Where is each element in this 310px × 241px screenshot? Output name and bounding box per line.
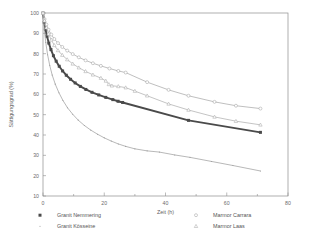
data-point <box>61 69 64 72</box>
data-point <box>195 214 198 217</box>
data-point <box>69 78 72 81</box>
data-point <box>53 44 56 47</box>
legend-label: Marmor Laas <box>213 223 245 229</box>
plot-frame <box>43 13 288 196</box>
data-point <box>117 100 120 103</box>
y-axis-title: Sättigungsgrad (%) <box>8 81 14 127</box>
data-point <box>146 81 149 84</box>
data-point <box>55 60 58 63</box>
data-point <box>90 130 91 131</box>
data-point <box>84 125 85 126</box>
legend-entry[interactable]: Marmor Laas <box>194 223 245 229</box>
series-4 <box>41 11 262 126</box>
data-point <box>232 165 233 166</box>
data-point <box>52 74 53 75</box>
x-tick-label: 60 <box>224 200 230 206</box>
data-point <box>121 101 124 104</box>
data-point <box>50 38 53 41</box>
y-tick-label: 60 <box>33 91 39 97</box>
data-point <box>174 154 175 155</box>
data-point <box>211 161 212 162</box>
data-point <box>47 54 48 55</box>
y-tick-label: 40 <box>33 132 39 138</box>
series-line <box>43 13 260 109</box>
data-point <box>134 148 135 149</box>
legend-entry[interactable]: Granit Nemmering <box>39 212 102 218</box>
y-tick-label: 100 <box>30 10 39 16</box>
data-point <box>84 59 87 62</box>
data-point <box>213 100 216 103</box>
data-point <box>77 66 80 69</box>
data-point <box>117 69 120 72</box>
data-point <box>99 64 102 67</box>
data-point <box>111 141 112 142</box>
y-tick-label: 90 <box>33 30 39 36</box>
data-point <box>187 119 190 122</box>
y-tick-label: 30 <box>33 152 39 158</box>
data-point <box>71 53 74 56</box>
data-point <box>79 85 82 88</box>
data-point <box>62 100 63 101</box>
x-axis-title: Zeit (h) <box>157 209 174 215</box>
data-point <box>259 107 262 110</box>
series-line <box>43 13 260 125</box>
data-point <box>78 120 79 121</box>
data-point <box>167 88 170 91</box>
data-point <box>67 107 68 108</box>
data-point <box>77 56 80 59</box>
data-point <box>58 92 59 93</box>
legend-label: Granit Kösseine <box>57 223 95 229</box>
data-point <box>111 98 114 101</box>
series-line <box>43 13 260 171</box>
data-point <box>118 143 119 144</box>
data-point <box>57 42 60 45</box>
series-2 <box>42 12 261 171</box>
data-point <box>50 33 53 36</box>
data-point <box>91 91 94 94</box>
data-point <box>55 84 56 85</box>
data-point <box>194 224 197 227</box>
series-3 <box>42 12 262 111</box>
data-point <box>125 146 126 147</box>
y-tick-label: 10 <box>33 193 39 199</box>
data-point <box>97 93 100 96</box>
data-point <box>39 226 40 227</box>
data-point <box>66 49 69 52</box>
data-point <box>47 42 50 45</box>
data-point <box>259 131 262 134</box>
data-point <box>58 65 61 68</box>
data-point <box>189 157 190 158</box>
data-point <box>104 96 107 99</box>
data-point <box>159 152 160 153</box>
data-point <box>187 94 190 97</box>
y-tick-label: 80 <box>33 51 39 57</box>
x-tick-label: 0 <box>42 200 45 206</box>
series-line <box>43 13 260 132</box>
data-point <box>53 38 56 41</box>
data-point <box>45 42 46 43</box>
data-point <box>104 79 107 82</box>
data-point <box>234 104 237 107</box>
y-tick-label: 70 <box>33 71 39 77</box>
data-point <box>108 67 111 70</box>
y-tick-label: 20 <box>33 173 39 179</box>
legend-label: Marmor Carrara <box>213 212 251 218</box>
data-point <box>84 88 87 91</box>
data-point <box>52 54 55 57</box>
x-tick-label: 80 <box>285 200 291 206</box>
legend-entry[interactable]: Granit Kösseine <box>39 223 95 229</box>
data-point <box>65 74 68 77</box>
chart-figure: 102030405060708090100020406080Zeit (h)Sä… <box>0 0 310 241</box>
data-point <box>104 137 105 138</box>
x-tick-label: 20 <box>101 200 107 206</box>
data-point <box>72 114 73 115</box>
y-tick-label: 50 <box>33 112 39 118</box>
legend-entry[interactable]: Marmor Carrara <box>195 212 252 218</box>
data-point <box>74 81 77 84</box>
data-point <box>97 134 98 135</box>
data-point <box>39 214 42 217</box>
data-point <box>61 45 64 48</box>
data-point <box>147 150 148 151</box>
data-point <box>260 170 261 171</box>
legend-label: Granit Nemmering <box>57 212 101 218</box>
